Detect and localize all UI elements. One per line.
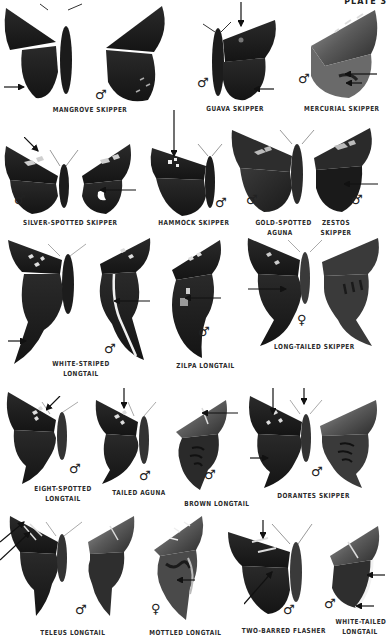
sex-symbol-zestos: ♂ bbox=[351, 193, 363, 206]
sex-symbol-white-striped: ♂ bbox=[104, 342, 116, 355]
label-white-tailed-line1: WHITE-TAILED bbox=[335, 617, 384, 627]
field-guide-plate: PLATE 3 ♂ MANGROVE SK bbox=[0, 0, 389, 638]
label-guava-skipper: GUAVA SKIPPER bbox=[206, 104, 263, 114]
sex-symbol-gold-spotted-aguna: ♂ bbox=[246, 193, 258, 206]
arrow-mangrove bbox=[4, 84, 26, 90]
sex-symbol-mangrove: ♂ bbox=[95, 88, 107, 101]
sex-symbol-dorantes: ♂ bbox=[311, 465, 323, 478]
arrow-white-striped-stripe bbox=[114, 298, 152, 304]
arrow-mottled bbox=[177, 577, 197, 583]
label-zilpa-longtail: ZILPA LONGTAIL bbox=[176, 361, 233, 371]
arrow-white-striped-tail bbox=[8, 338, 28, 344]
guava-skipper-illustration bbox=[195, 20, 285, 105]
arrow-white-tailed-2 bbox=[356, 603, 376, 609]
arrow-zestos bbox=[344, 181, 380, 187]
sex-symbol-white-tailed: ♂ bbox=[324, 597, 336, 610]
arrow-guava-top bbox=[238, 2, 244, 28]
mercurial-skipper-illustration bbox=[305, 6, 385, 101]
sex-symbol-hammock: ♂ bbox=[215, 196, 227, 209]
sex-symbol-brown-longtail: ♂ bbox=[204, 468, 216, 481]
label-tailed-aguna: TAILED AGUNA bbox=[110, 488, 167, 498]
two-barred-flasher-illustration bbox=[224, 520, 324, 620]
arrow-teleus-2 bbox=[0, 530, 32, 562]
sex-symbol-zilpa: ♂ bbox=[198, 325, 210, 338]
sex-symbol-mottled: ♀ bbox=[151, 602, 161, 615]
arrow-mercurial-1 bbox=[345, 71, 379, 77]
arrow-mercurial-2 bbox=[346, 80, 364, 86]
sex-symbol-mercurial: ♂ bbox=[298, 72, 310, 85]
label-mangrove-skipper: MANGROVE SKIPPER bbox=[49, 105, 131, 115]
arrow-zilpa bbox=[185, 295, 223, 301]
label-white-tailed-line2: LONGTAIL bbox=[335, 627, 384, 637]
arrow-guava-bottom bbox=[254, 86, 276, 92]
label-zestos-line1: ZESTOS bbox=[320, 218, 353, 228]
arrow-long-tailed bbox=[248, 286, 288, 292]
arrow-silver-spotted-top bbox=[24, 137, 40, 153]
tailed-aguna-illustration bbox=[92, 394, 162, 484]
arrow-two-barred-bottom bbox=[244, 570, 274, 606]
label-teleus-longtail: TELEUS LONGTAIL bbox=[40, 628, 97, 638]
label-white-striped-line1: WHITE-STRIPED bbox=[52, 359, 109, 369]
label-mercurial-skipper: MERCURIAL SKIPPER bbox=[304, 104, 378, 114]
arrow-tailed-aguna bbox=[121, 388, 127, 410]
label-long-tailed-skipper: LONG-TAILED SKIPPER bbox=[274, 342, 348, 352]
sex-symbol-long-tailed: ♀ bbox=[297, 313, 307, 326]
label-brown-longtail: BROWN LONGTAIL bbox=[184, 499, 241, 509]
label-gold-spotted-aguna-line1: GOLD-SPOTTED bbox=[255, 218, 304, 228]
sex-symbol-two-barred: ♂ bbox=[283, 603, 295, 616]
arrow-dorantes-1 bbox=[270, 388, 276, 416]
sex-symbol-tailed-aguna: ♂ bbox=[139, 469, 151, 482]
label-two-barred-flasher: TWO-BARRED FLASHER bbox=[242, 626, 313, 636]
sex-symbol-teleus: ♂ bbox=[75, 603, 87, 616]
arrow-two-barred-top bbox=[260, 520, 266, 540]
sex-symbol-guava: ♂ bbox=[197, 76, 209, 89]
sex-symbol-eight-spotted: ♂ bbox=[69, 462, 81, 475]
label-eight-spotted-line1: EIGHT-SPOTTED bbox=[34, 484, 91, 494]
label-silver-spotted-skipper: SILVER-SPOTTED SKIPPER bbox=[23, 218, 105, 228]
label-hammock-skipper: HAMMOCK SKIPPER bbox=[158, 218, 215, 228]
arrow-eight-spotted bbox=[46, 396, 62, 412]
label-mottled-longtail: MOTTLED LONGTAIL bbox=[149, 628, 215, 638]
label-dorantes-skipper: DORANTES SKIPPER bbox=[277, 491, 343, 501]
arrow-silver-spotted-hw bbox=[100, 187, 138, 193]
arrow-hammock bbox=[171, 110, 177, 158]
sex-symbol-silver-spotted: ♂ bbox=[14, 193, 26, 206]
arrow-brown-longtail bbox=[202, 410, 240, 416]
arrow-dorantes-2 bbox=[301, 388, 307, 406]
label-eight-spotted-line2: LONGTAIL bbox=[34, 494, 91, 504]
arrow-white-tailed-1 bbox=[367, 572, 387, 578]
mangrove-skipper-illustration bbox=[0, 2, 170, 107]
label-white-striped-line2: LONGTAIL bbox=[52, 369, 109, 379]
arrow-dorantes-3 bbox=[250, 455, 270, 461]
